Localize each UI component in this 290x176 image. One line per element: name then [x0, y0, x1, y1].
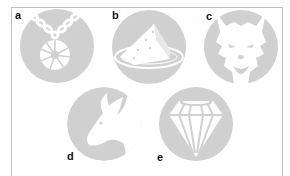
amulet-necklace-icon	[20, 9, 94, 83]
cheese-wedge-on-plate-icon	[112, 10, 186, 84]
werewolf-head-icon	[204, 10, 278, 84]
diamond-gem-icon	[159, 87, 233, 161]
goat-head-icon	[67, 87, 141, 161]
